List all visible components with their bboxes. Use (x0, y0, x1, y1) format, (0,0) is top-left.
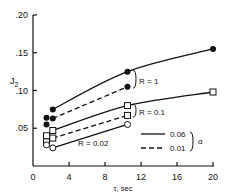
annotation-r002: R = 0.02 (78, 139, 109, 148)
legend-label: 0.06 (170, 130, 186, 139)
x-tick-label: 20 (208, 172, 218, 182)
data-point (44, 142, 50, 148)
x-tick-label: 8 (102, 172, 107, 182)
data-point (125, 112, 131, 118)
data-point (125, 103, 131, 109)
data-point (44, 133, 50, 139)
data-point (44, 121, 50, 127)
data-point (50, 135, 56, 141)
legend-group-label: α (198, 137, 203, 146)
x-tick-label: 16 (172, 172, 182, 182)
legend-label: 0.01 (170, 144, 186, 153)
data-point (44, 115, 50, 121)
y-axis-label: J2 (10, 76, 19, 88)
data-point (210, 89, 216, 95)
data-point (50, 128, 56, 134)
data-point (210, 46, 216, 52)
chart: 048121620.05.10.15.20τ, secJ2R = 1R = 0.… (0, 0, 229, 193)
y-tick-label: .05 (15, 123, 28, 133)
data-point (125, 84, 131, 90)
annotation-r01: R = 0.1 (139, 108, 166, 117)
x-axis-label: τ, sec (114, 184, 133, 193)
x-tick-label: 12 (136, 172, 146, 182)
data-point (50, 115, 56, 121)
y-tick-label: .20 (15, 10, 28, 20)
series (44, 46, 217, 151)
data-point (125, 121, 131, 127)
annotation-r1: R = 1 (139, 77, 159, 86)
data-point (50, 106, 56, 112)
data-point (125, 69, 131, 75)
x-tick-label: 4 (66, 172, 71, 182)
data-point (50, 145, 56, 151)
axes (33, 15, 214, 166)
series-line (44, 46, 217, 121)
ticks (33, 15, 213, 166)
y-tick-label: .15 (15, 48, 28, 58)
x-tick-label: 0 (30, 172, 35, 182)
